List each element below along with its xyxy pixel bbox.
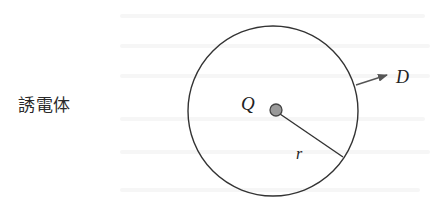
point-charge: [270, 104, 282, 116]
dielectric-label: 誘電体: [18, 95, 71, 115]
diagram-canvas: 誘電体 Q r D: [0, 0, 445, 218]
radius-line: [280, 114, 343, 157]
d-field-arrow-icon: [356, 75, 387, 85]
charge-label: Q: [241, 94, 255, 114]
displacement-label: D: [396, 67, 409, 87]
radius-label: r: [296, 146, 302, 162]
